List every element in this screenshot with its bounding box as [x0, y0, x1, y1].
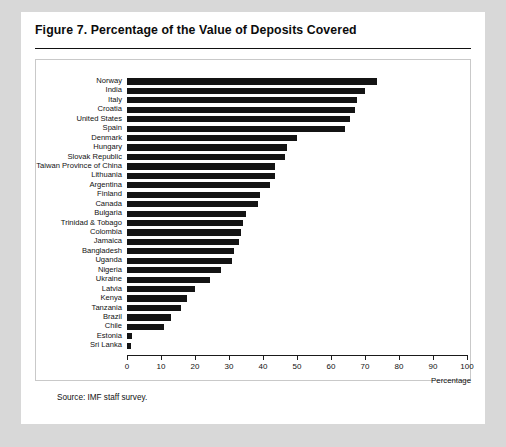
bar-fill [127, 192, 260, 198]
bar-category-label: Norway [96, 76, 122, 85]
bar-row: Nigeria [127, 266, 467, 275]
x-tick-mark [399, 356, 400, 360]
bar-chart: NorwayIndiaItalyCroatiaUnited StatesSpai… [127, 77, 467, 355]
bar-fill [127, 144, 287, 150]
bar-category-label: Nigeria [98, 265, 122, 274]
bar-row: Bulgaria [127, 209, 467, 218]
bar-category-label: Argentina [89, 180, 122, 189]
bar-category-label: Tanzania [92, 303, 122, 312]
bar-category-label: Denmark [91, 133, 122, 142]
title-divider [35, 48, 471, 49]
x-tick-label: 30 [225, 362, 234, 371]
x-tick-mark [297, 356, 298, 360]
bar-fill [127, 78, 377, 84]
bar-fill [127, 126, 345, 132]
bar-category-label: Spain [103, 123, 122, 132]
figure-card: Figure 7. Percentage of the Value of Dep… [21, 12, 485, 424]
bar-row: Hungary [127, 143, 467, 152]
bar-row: Sri Lanka [127, 341, 467, 350]
bar-fill [127, 333, 132, 339]
bar-row: Norway [127, 77, 467, 86]
bar-fill [127, 286, 195, 292]
bar-row: Chile [127, 322, 467, 331]
x-tick-label: 50 [293, 362, 302, 371]
x-tick-label: 20 [191, 362, 200, 371]
x-tick-mark [331, 356, 332, 360]
page-title: Figure 7. Percentage of the Value of Dep… [35, 23, 357, 37]
bar-fill [127, 229, 241, 235]
bar-category-label: Kenya [100, 293, 122, 302]
bar-fill [127, 258, 232, 264]
x-tick-mark [127, 356, 128, 360]
bar-row: Taiwan Province of China [127, 162, 467, 171]
bar-category-label: Slovak Republic [68, 152, 122, 161]
bar-fill [127, 295, 187, 301]
bar-category-label: Croatia [98, 104, 122, 113]
bar-fill [127, 182, 270, 188]
bar-row: Kenya [127, 294, 467, 303]
x-tick-mark [195, 356, 196, 360]
bar-category-label: Canada [95, 199, 122, 208]
bar-category-label: Latvia [102, 284, 122, 293]
bar-category-label: Uganda [95, 255, 122, 264]
bar-row: Croatia [127, 105, 467, 114]
x-tick-mark [433, 356, 434, 360]
plot-frame: NorwayIndiaItalyCroatiaUnited StatesSpai… [35, 59, 471, 381]
bar-category-label: Taiwan Province of China [36, 161, 122, 170]
bar-row: Slovak Republic [127, 153, 467, 162]
figure-page: Figure 7. Percentage of the Value of Dep… [0, 0, 506, 447]
bar-row: Lithuania [127, 171, 467, 180]
bar-fill [127, 277, 210, 283]
x-tick-mark [161, 356, 162, 360]
bar-row: Canada [127, 200, 467, 209]
bar-category-label: Trinidad & Tobago [61, 218, 122, 227]
bar-fill [127, 135, 297, 141]
bar-row: Finland [127, 190, 467, 199]
bar-row: Denmark [127, 134, 467, 143]
bar-fill [127, 314, 171, 320]
x-tick-label: 100 [460, 362, 473, 371]
bar-category-label: Ukraine [96, 274, 122, 283]
bar-row: Latvia [127, 285, 467, 294]
bar-fill [127, 343, 131, 349]
bar-fill [127, 201, 258, 207]
x-tick-label: 70 [361, 362, 370, 371]
bar-category-label: Jamaica [94, 236, 122, 245]
bar-row: Brazil [127, 313, 467, 322]
bar-fill [127, 248, 234, 254]
x-tick-label: 0 [125, 362, 129, 371]
bar-fill [127, 211, 246, 217]
bar-row: Tanzania [127, 304, 467, 313]
bar-row: Trinidad & Tobago [127, 219, 467, 228]
source-note: Source: IMF staff survey. [57, 393, 147, 402]
x-tick-mark [229, 356, 230, 360]
bar-category-label: Brazil [103, 312, 122, 321]
bar-fill [127, 116, 350, 122]
bar-fill [127, 97, 357, 103]
bar-row: Ukraine [127, 275, 467, 284]
bar-row: Italy [127, 96, 467, 105]
x-tick-mark [467, 356, 468, 360]
bar-category-label: Finland [97, 189, 122, 198]
bar-row: Jamaica [127, 237, 467, 246]
bar-category-label: Lithuania [91, 170, 122, 179]
bar-category-label: Sri Lanka [90, 340, 122, 349]
x-tick-label: 10 [157, 362, 166, 371]
bar-category-label: Estonia [97, 331, 122, 340]
x-tick-mark [365, 356, 366, 360]
bar-fill [127, 324, 164, 330]
x-tick-label: 90 [429, 362, 438, 371]
bar-fill [127, 107, 355, 113]
bar-fill [127, 154, 285, 160]
x-tick-mark [263, 356, 264, 360]
bar-category-label: Bangladesh [82, 246, 122, 255]
x-tick-label: 40 [259, 362, 268, 371]
bar-category-label: India [106, 85, 122, 94]
bar-category-label: United States [76, 114, 122, 123]
bar-fill [127, 239, 239, 245]
bar-category-label: Hungary [93, 142, 122, 151]
bar-fill [127, 305, 181, 311]
bar-row: Estonia [127, 332, 467, 341]
x-axis-label: Percentage [431, 376, 471, 385]
bar-row: Bangladesh [127, 247, 467, 256]
